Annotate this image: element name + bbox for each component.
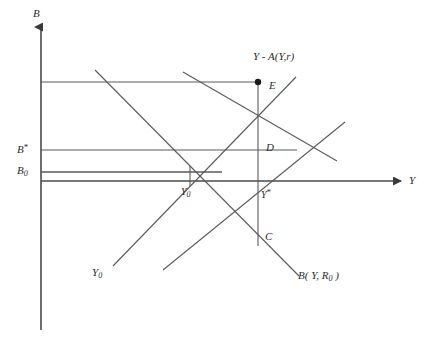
curve-label-B-tail: )	[332, 269, 338, 281]
horizontal-guides-group	[41, 82, 297, 172]
b-zero-sub: 0	[24, 169, 28, 178]
b-star-mark: *	[24, 142, 29, 152]
curve-label-B-main: B( Y, R	[298, 269, 328, 281]
point-D-label: D	[266, 142, 274, 153]
point-E-marker	[255, 79, 261, 85]
b-star-label: B*	[17, 143, 28, 155]
point-Y-star-mark: *	[267, 187, 272, 197]
point-E-label: E	[269, 80, 276, 91]
b-star-main: B	[17, 143, 24, 155]
point-Y0-label: Y0	[181, 187, 191, 199]
b-zero-label: B0	[17, 165, 28, 178]
point-Y-star-label: Y*	[261, 188, 271, 200]
curve-label-Y0: Y0	[92, 267, 102, 280]
point-Y0-sub: 0	[187, 190, 191, 199]
diagram-canvas: B Y B* B0 E D C Y0 Y* Y - A(Y,r) Y0 B( Y…	[0, 0, 435, 347]
schedules-group	[95, 70, 345, 276]
curve-label-YA: Y - A(Y,r)	[253, 51, 294, 62]
point-C-label: C	[265, 231, 272, 242]
curve-label-B: B( Y, R0 )	[298, 270, 339, 283]
b-zero-main: B	[17, 164, 24, 176]
y-axis-label: Y	[409, 175, 415, 186]
b-axis-label: B	[33, 8, 40, 19]
curve-label-Y0-sub: 0	[98, 271, 102, 280]
schedule-ya-upper	[95, 70, 299, 276]
axis-group	[41, 27, 401, 330]
diagram-svg	[0, 0, 435, 347]
